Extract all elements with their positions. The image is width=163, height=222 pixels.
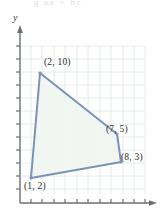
graph-figure: g ax + by xyxy=(0,0,163,222)
vertex-label-1-2: (1, 2) xyxy=(24,181,46,191)
vertex-label-8-3: (8, 3) xyxy=(121,152,143,162)
vertex-label-2-10: (2, 10) xyxy=(44,57,71,67)
y-axis-label: y xyxy=(13,12,17,23)
x-axis xyxy=(20,199,157,206)
vertex-label-7-5: (7, 5) xyxy=(106,124,128,134)
